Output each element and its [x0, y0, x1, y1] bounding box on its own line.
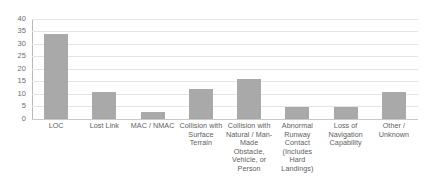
x-tick-label: Lost Link — [81, 122, 127, 131]
bar — [44, 34, 68, 119]
x-tick-label: LOC — [33, 122, 79, 131]
bar-slot — [80, 19, 128, 119]
bar-slot — [129, 19, 177, 119]
x-tick-label: Other / Unknown — [371, 122, 417, 139]
bar-slot — [370, 19, 418, 119]
x-tick-label: Collision with Natural / Man- Made Obsta… — [226, 122, 272, 174]
gridline-0-baseline — [32, 119, 418, 120]
bar — [334, 107, 358, 120]
x-tick-label: Abnormal Runway Contact (Includes Hard L… — [274, 122, 320, 174]
x-label-slot: Collision with Natural / Man- Made Obsta… — [225, 122, 273, 174]
x-label-slot: Loss of Navigation Capability — [322, 122, 370, 174]
bar-slot — [225, 19, 273, 119]
x-label-slot: MAC / NMAC — [129, 122, 177, 174]
y-tick-label-0: 0 — [22, 115, 26, 123]
bar-chart: 40 35 30 25 20 15 10 5 0 — [0, 0, 428, 180]
x-axis-labels: LOC Lost Link MAC / NMAC Collision with … — [32, 122, 418, 174]
y-tick-label-30: 30 — [17, 40, 26, 48]
bar-series — [32, 19, 418, 119]
x-label-slot: Lost Link — [80, 122, 128, 174]
x-tick-label: Collision with Surface Terrain — [178, 122, 224, 148]
bar — [189, 89, 213, 119]
y-tick-label-25: 25 — [17, 52, 26, 60]
bar — [285, 107, 309, 120]
x-label-slot: Other / Unknown — [370, 122, 418, 174]
y-tick-label-20: 20 — [17, 65, 26, 73]
y-tick-label-40: 40 — [17, 15, 26, 23]
bar — [141, 112, 165, 120]
y-tick-label-35: 35 — [17, 27, 26, 35]
x-tick-label: Loss of Navigation Capability — [323, 122, 369, 148]
y-tick-label-5: 5 — [22, 102, 26, 110]
y-tick-label-10: 10 — [17, 90, 26, 98]
x-label-slot: LOC — [32, 122, 80, 174]
y-axis-labels: 40 35 30 25 20 15 10 5 0 — [0, 0, 30, 180]
bar-slot — [273, 19, 321, 119]
bar-slot — [177, 19, 225, 119]
bar — [237, 79, 261, 119]
x-label-slot: Collision with Surface Terrain — [177, 122, 225, 174]
x-tick-label: MAC / NMAC — [130, 122, 176, 131]
bar — [382, 92, 406, 120]
x-label-slot: Abnormal Runway Contact (Includes Hard L… — [273, 122, 321, 174]
bar — [92, 92, 116, 120]
bar-slot — [322, 19, 370, 119]
plot-area — [32, 19, 418, 119]
bar-slot — [32, 19, 80, 119]
y-tick-label-15: 15 — [17, 77, 26, 85]
